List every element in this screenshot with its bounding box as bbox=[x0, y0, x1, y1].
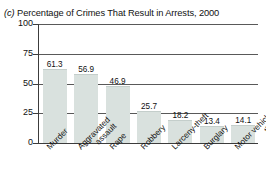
x-axis-category-labels: MurderAggravatedassaultRapeRobberyLarcen… bbox=[38, 145, 258, 196]
y-tick-label-75: 75 bbox=[0, 49, 33, 58]
y-tick-label-text: 100 bbox=[3, 19, 33, 28]
y-tick-label-25: 25 bbox=[0, 108, 33, 117]
y-tick-label-text: 50 bbox=[3, 79, 33, 88]
bar-value-label: 46.9 bbox=[100, 77, 136, 86]
y-tick-label-text: 0 bbox=[3, 138, 33, 147]
panel-letter: (c) bbox=[4, 8, 15, 18]
bar-slot: 61.3 bbox=[43, 24, 67, 143]
y-tick-label-text: 75 bbox=[3, 49, 33, 58]
y-tick-label-100: 100 bbox=[0, 19, 33, 28]
chart-title-text: Percentage of Crimes That Result in Arre… bbox=[15, 8, 220, 18]
bar-value-label: 25.7 bbox=[131, 102, 167, 111]
y-tick-label-0: 0 bbox=[0, 138, 33, 147]
bar-chart-figure: (c) Percentage of Crimes That Result in … bbox=[0, 0, 266, 196]
chart-title: (c) Percentage of Crimes That Result in … bbox=[4, 8, 219, 19]
y-tick-label-text: 25 bbox=[3, 108, 33, 117]
bar-value-label: 56.9 bbox=[68, 65, 104, 74]
y-tick-label-50: 50 bbox=[0, 79, 33, 88]
